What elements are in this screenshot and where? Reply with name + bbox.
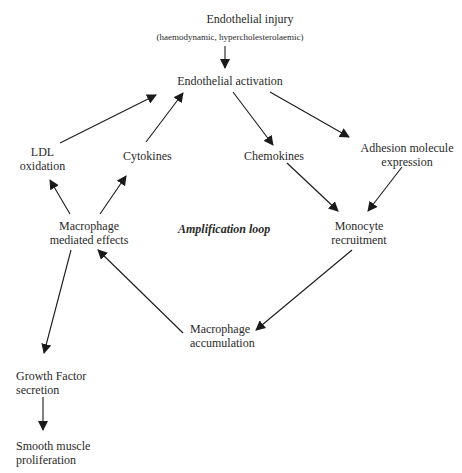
node-chemokines: Chemokines — [244, 149, 304, 163]
arrow-monocyte-to-accumulation — [256, 250, 352, 330]
arrow-accumulation-to-effects — [98, 250, 183, 333]
arrow-adhesion-to-monocyte — [368, 167, 402, 211]
arrow-effects-to-growth — [44, 250, 71, 353]
node-endothelial-activation: Endothelial activation — [160, 74, 300, 88]
node-smooth-muscle-line2: proliferation — [16, 453, 76, 467]
label-amplification-loop: Amplification loop — [178, 222, 270, 236]
node-growth-factor-line1: Growth Factor — [16, 369, 86, 383]
node-ldl-oxidation-line2: oxidation — [15, 159, 70, 173]
arrow-effects-to-ldl — [50, 180, 70, 214]
node-injury-subtitle: (haemodynamic, hypercholesterolaemic) — [155, 32, 305, 43]
node-endothelial-injury: Endothelial injury — [185, 12, 315, 26]
arrow-ldl-to-activation — [60, 95, 156, 143]
node-macrophage-effects-line2: mediated effects — [48, 233, 130, 247]
arrow-cytokines-to-activation — [146, 93, 183, 142]
node-adhesion-line2: expression — [357, 155, 457, 169]
node-macrophage-accum-line2: accumulation — [190, 336, 255, 350]
node-growth-factor-line2: secretion — [16, 383, 59, 397]
node-adhesion-line1: Adhesion molecule — [357, 141, 457, 155]
arrow-activation-to-chemokines — [233, 92, 273, 145]
node-ldl-oxidation-line1: LDL — [15, 145, 70, 159]
node-monocyte-line2: recruitment — [330, 233, 388, 247]
node-macrophage-effects-line1: Macrophage — [48, 219, 130, 233]
node-monocyte-line1: Monocyte — [330, 219, 388, 233]
node-smooth-muscle-line1: Smooth muscle — [16, 439, 90, 453]
node-macrophage-accum-line1: Macrophage — [190, 322, 250, 336]
arrow-effects-to-cytokines — [100, 176, 126, 214]
arrow-chemokines-to-monocyte — [287, 163, 338, 211]
arrow-activation-to-adhesion — [270, 92, 349, 137]
node-cytokines: Cytokines — [123, 149, 172, 163]
